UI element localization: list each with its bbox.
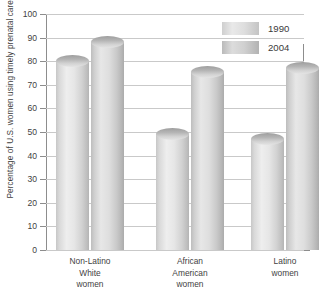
- bar-1990-group-3[interactable]: [251, 139, 284, 250]
- gridline-100: [46, 14, 304, 15]
- legend-label-1990: 1990: [268, 23, 289, 34]
- bar-1990-group-1[interactable]: [56, 61, 89, 250]
- y-tick-label-60: 60: [27, 103, 37, 113]
- y-tick-label-20: 20: [27, 198, 37, 208]
- legend-item-1990[interactable]: 1990: [222, 21, 289, 36]
- gridline-0: [46, 250, 304, 251]
- y-tick-label-30: 30: [27, 174, 37, 184]
- y-tick-60: [40, 108, 46, 109]
- bar-cap-icon: [56, 55, 89, 67]
- bar-2004-group-3[interactable]: [286, 68, 319, 250]
- y-tick-label-50: 50: [27, 127, 37, 137]
- y-tick-20: [40, 203, 46, 204]
- legend-swatch-1990: [222, 22, 259, 35]
- y-tick-label-40: 40: [27, 151, 37, 161]
- bar-cap-icon: [91, 36, 124, 48]
- x-axis-label-group-3: Latinowomen: [239, 256, 320, 279]
- legend-swatch-2004: [222, 41, 259, 54]
- legend: 1990 2004: [222, 21, 289, 59]
- bar-cap-icon: [286, 62, 319, 74]
- bar-chart: Percentage of U.S. women using timely pr…: [0, 0, 320, 299]
- x-axis-label-group-2: AfricanAmericanwomen: [144, 256, 236, 291]
- y-tick-label-0: 0: [32, 245, 37, 255]
- bar-2004-group-2[interactable]: [191, 72, 224, 250]
- legend-label-2004: 2004: [268, 42, 289, 53]
- bar-2004-group-1[interactable]: [91, 42, 124, 250]
- y-tick-80: [40, 61, 46, 62]
- y-tick-label-80: 80: [27, 56, 37, 66]
- y-tick-label-90: 90: [27, 33, 37, 43]
- y-tick-100: [40, 14, 46, 15]
- y-tick-10: [40, 226, 46, 227]
- y-tick-label-100: 100: [23, 9, 37, 19]
- y-tick-label-70: 70: [27, 80, 37, 90]
- y-tick-label-10: 10: [27, 221, 37, 231]
- bar-cap-icon: [156, 128, 189, 140]
- y-tick-0: [40, 250, 46, 251]
- bar-cap-icon: [191, 66, 224, 78]
- bar-1990-group-2[interactable]: [156, 134, 189, 250]
- legend-item-2004[interactable]: 2004: [222, 40, 289, 55]
- y-tick-30: [40, 179, 46, 180]
- y-tick-90: [40, 38, 46, 39]
- y-tick-50: [40, 132, 46, 133]
- bar-cap-icon: [251, 133, 284, 145]
- y-tick-70: [40, 85, 46, 86]
- y-tick-40: [40, 156, 46, 157]
- x-axis-label-group-1: Non-LatinoWhitewomen: [44, 256, 136, 291]
- y-axis-title: Percentage of U.S. women using timely pr…: [6, 0, 17, 199]
